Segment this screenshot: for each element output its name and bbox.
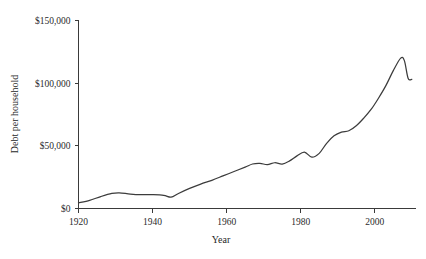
line-chart: $0$50,000$100,000$150,000 19201940196019… <box>0 0 426 259</box>
y-tick-group: $0$50,000$100,000$150,000 <box>35 16 79 214</box>
x-tick-label: 1940 <box>143 217 162 227</box>
x-tick-label: 1920 <box>69 217 88 227</box>
chart-screenshot: $0$50,000$100,000$150,000 19201940196019… <box>0 0 426 259</box>
x-tick-label: 1960 <box>217 217 236 227</box>
debt-per-household-series <box>79 57 412 203</box>
y-tick-label: $150,000 <box>35 16 71 26</box>
x-tick-group: 19201940196019802000 <box>69 209 385 227</box>
y-axis-title: Debt per household <box>9 75 20 153</box>
y-tick-label: $0 <box>61 204 71 214</box>
x-tick-label: 1980 <box>291 217 310 227</box>
x-tick-label: 2000 <box>365 217 384 227</box>
y-tick-label: $100,000 <box>35 79 71 89</box>
x-axis-title: Year <box>212 234 231 245</box>
y-tick-label: $50,000 <box>40 141 71 151</box>
